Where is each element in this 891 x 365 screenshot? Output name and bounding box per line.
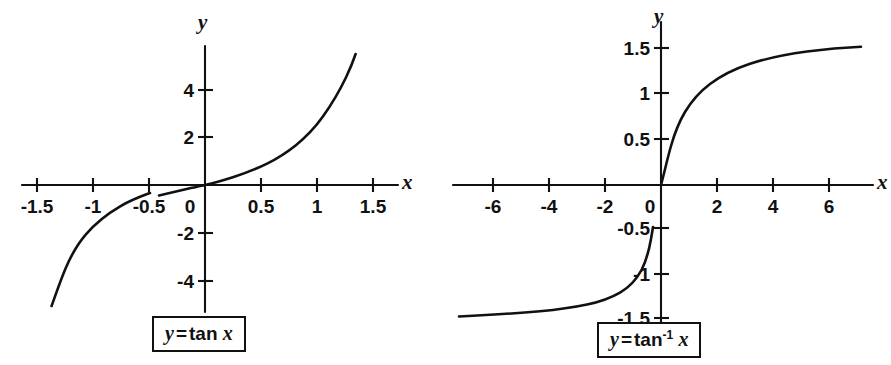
x-tick-label: 4 (768, 197, 779, 216)
y-tick-label: 1 (639, 84, 650, 103)
chart-panel-tan: x y -1.5 -1 -0.5 0 0.5 1 1.5 4 2 -2 -4 y… (0, 0, 445, 365)
caption-function: tan (634, 329, 663, 350)
curve-tan-principal-branch (159, 54, 356, 196)
caption-argument: x (678, 328, 688, 350)
caption-equals: = (619, 329, 634, 350)
x-tick-label: -0.5 (133, 197, 166, 216)
curve-arctan-negative-branch (459, 227, 653, 317)
caption-variable: y (610, 328, 619, 350)
caption-exponent: -1 (663, 328, 674, 342)
x-tick-label: -1.5 (21, 197, 54, 216)
x-tick-label: 6 (824, 197, 835, 216)
y-tick-label: -0.5 (617, 219, 650, 238)
caption-box-tan: y=tan x (152, 316, 246, 352)
caption-equals: = (174, 323, 189, 344)
caption-argument: x (223, 322, 233, 344)
x-tick-label: 1 (312, 197, 323, 216)
x-tick-label: -6 (485, 197, 502, 216)
x-tick-label: -4 (541, 197, 558, 216)
x-tick-label: 1.5 (360, 197, 386, 216)
arctan-plot-svg (445, 0, 891, 365)
x-tick-label-zero: 0 (645, 197, 656, 216)
tan-plot-svg (0, 0, 445, 365)
y-tick-label: -4 (177, 272, 194, 291)
x-tick-label: 0.5 (248, 197, 274, 216)
x-tick-label-zero: 0 (185, 197, 196, 216)
caption-function: tan (189, 323, 218, 344)
caption-variable: y (165, 322, 174, 344)
y-tick-label: 1.5 (624, 39, 650, 58)
figure-root: x y -1.5 -1 -0.5 0 0.5 1 1.5 4 2 -2 -4 y… (0, 0, 891, 365)
x-tick-label: -2 (597, 197, 614, 216)
caption-box-arctan: y=tan-1 x (597, 322, 701, 358)
chart-panel-arctan: x y -6 -4 -2 0 2 4 6 1.5 1 0.5 -0.5 -1 -… (445, 0, 891, 365)
y-axis-name: y (654, 6, 663, 27)
y-tick-label: 4 (183, 81, 194, 100)
x-axis-name: x (877, 172, 888, 193)
y-tick-label: 0.5 (624, 130, 650, 149)
y-tick-label: 2 (183, 128, 194, 147)
x-tick-label: 2 (712, 197, 723, 216)
x-axis-name: x (402, 172, 413, 193)
y-axis-name: y (198, 12, 207, 33)
y-tick-label: -2 (177, 224, 194, 243)
curve-arctan-positive-branch (661, 47, 861, 185)
y-tick-label: -1 (633, 265, 650, 284)
x-tick-label: -1 (85, 197, 102, 216)
